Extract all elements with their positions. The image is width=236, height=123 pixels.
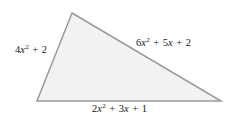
left-operator-1: + <box>32 44 39 55</box>
left-constant: 2 <box>42 44 47 55</box>
hypotenuse-operator-2: + <box>176 37 183 48</box>
hypotenuse-exponent: 2 <box>146 36 150 44</box>
triangle-figure: 4x2 + 2 6x2 + 5x + 2 2x2 + 3x + 1 <box>0 0 236 123</box>
base-operator-2: + <box>132 103 139 114</box>
base-constant: 1 <box>142 103 147 114</box>
triangle-polygon <box>37 13 221 101</box>
left-exponent: 2 <box>25 43 29 51</box>
base-operator-1: + <box>109 103 116 114</box>
side-label-left: 4x2 + 2 <box>15 45 47 56</box>
hypotenuse-linear-variable: x <box>168 37 173 48</box>
side-label-hypotenuse: 6x2 + 5x + 2 <box>136 38 191 49</box>
hypotenuse-constant: 2 <box>186 37 191 48</box>
side-label-base: 2x2 + 3x + 1 <box>92 104 147 115</box>
base-linear-variable: x <box>124 103 129 114</box>
hypotenuse-operator-1: + <box>153 37 160 48</box>
base-exponent: 2 <box>102 102 106 110</box>
